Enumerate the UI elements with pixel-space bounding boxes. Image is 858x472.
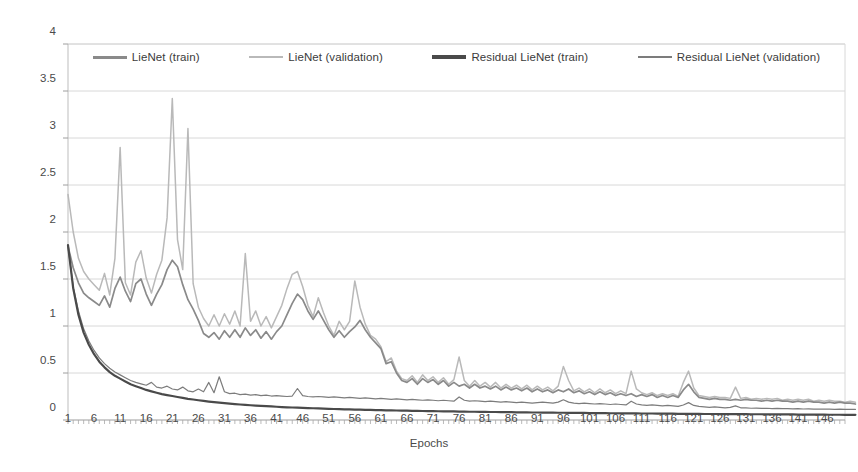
- legend-swatch-residual-lienet-train: [432, 55, 466, 58]
- series-line-lienet-validation: [68, 99, 855, 403]
- y-tick-3: 3: [6, 119, 56, 131]
- y-tick-2: 2: [6, 213, 56, 225]
- y-axis-ticks: [63, 44, 68, 420]
- legend-swatch-lienet-validation: [249, 56, 283, 58]
- y-tick-0.5: 0.5: [6, 354, 56, 366]
- legend-label: LieNet (validation): [288, 51, 383, 63]
- series-group: [68, 99, 855, 415]
- legend-label: LieNet (train): [132, 51, 200, 63]
- legend-item-lienet-train[interactable]: LieNet (train): [93, 51, 200, 63]
- legend-item-lienet-validation[interactable]: LieNet (validation): [249, 51, 383, 63]
- y-tick-1: 1: [6, 307, 56, 319]
- legend-item-residual-lienet-train[interactable]: Residual LieNet (train): [432, 51, 588, 63]
- legend-item-residual-lienet-validation[interactable]: Residual LieNet (validation): [638, 51, 820, 63]
- y-tick-3.5: 3.5: [6, 72, 56, 84]
- legend-label: Residual LieNet (train): [471, 51, 588, 63]
- y-tick-4: 4: [6, 25, 56, 37]
- legend-swatch-residual-lienet-validation: [638, 56, 672, 58]
- series-line-lienet-train: [68, 246, 855, 404]
- legend-swatch-lienet-train: [93, 56, 127, 59]
- plot-area: [0, 12, 858, 472]
- y-tick-2.5: 2.5: [6, 166, 56, 178]
- legend-label: Residual LieNet (validation): [677, 51, 820, 63]
- objective-vs-epochs-chart: Objective 00.511.522.533.54 161116212631…: [0, 0, 858, 472]
- y-tick-0: 0: [6, 401, 56, 413]
- x-axis-title: Epochs: [0, 437, 858, 449]
- x-tick-146: 146: [809, 412, 839, 424]
- chart-legend: LieNet (train)LieNet (validation)Residua…: [68, 46, 845, 68]
- y-tick-1.5: 1.5: [6, 260, 56, 272]
